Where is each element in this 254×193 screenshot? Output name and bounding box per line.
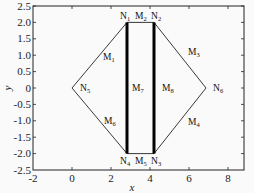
node-labels: N1 N2 N3 N4 N5 N6 [80,11,224,167]
svg-text:2: 2 [108,172,114,184]
label-n5: N5 [80,83,90,94]
svg-text:1.0: 1.0 [17,49,31,61]
y-ticks [33,6,244,154]
svg-text:8: 8 [225,172,231,184]
edge-m1 [72,22,127,88]
svg-text:-2: -2 [28,172,37,184]
svg-text:1.5: 1.5 [17,32,31,44]
label-n1: N1 [120,11,130,22]
label-m4: M4 [188,117,200,128]
x-axis-label: x [129,181,135,193]
label-n4: N4 [120,156,131,167]
label-m1: M1 [103,52,115,63]
svg-text:6: 6 [186,172,192,184]
svg-text:0: 0 [26,82,32,94]
svg-text:2.5: 2.5 [17,0,31,12]
edge-m6 [72,88,127,154]
x-ticks [72,6,228,170]
label-n6: N6 [213,83,224,94]
svg-text:-2.0: -2.0 [14,147,32,159]
svg-text:-1.5: -1.5 [14,131,32,143]
label-n2: N2 [151,11,161,22]
label-m3: M3 [188,47,200,58]
edge-labels: M1 M2 M3 M4 M5 M6 M7 M8 [103,11,200,167]
label-m8: M8 [162,83,174,94]
svg-text:-0.5: -0.5 [14,98,32,110]
label-n3: N3 [151,156,161,167]
label-m5: M5 [135,156,147,167]
label-m2: M2 [135,11,147,22]
svg-text:-1.0: -1.0 [14,114,32,126]
diagram-canvas: 2.5 2.0 1.5 1.0 0.5 0 -0.5 -1.0 -1.5 -2.… [0,0,254,193]
label-m7: M7 [132,83,144,94]
y-axis-label: y [1,85,13,91]
svg-text:2.0: 2.0 [17,16,31,28]
svg-text:4: 4 [147,172,153,184]
y-tick-labels: 2.5 2.0 1.5 1.0 0.5 0 -0.5 -1.0 -1.5 -2.… [14,0,32,176]
svg-text:0.5: 0.5 [17,65,31,77]
label-m6: M6 [104,116,116,127]
svg-text:0: 0 [69,172,75,184]
